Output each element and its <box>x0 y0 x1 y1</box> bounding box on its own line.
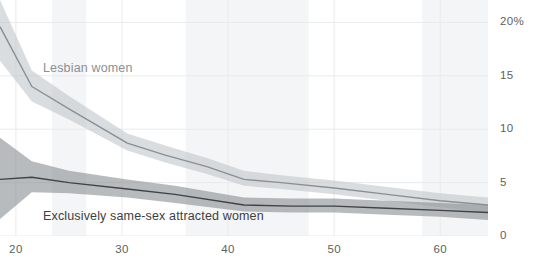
y-tick-label: 10 <box>500 123 514 135</box>
y-tick-label: 5 <box>500 177 507 189</box>
line-chart-svg <box>0 0 488 236</box>
x-tick-label: 50 <box>327 244 341 256</box>
series-label-lesbian-women: Lesbian women <box>43 62 133 75</box>
series-label-exclusively-same-sex-attracted-women: Exclusively same-sex attracted women <box>43 210 264 223</box>
plot-area <box>0 0 488 236</box>
y-tick-label: 15 <box>500 70 514 82</box>
x-tick-label: 20 <box>9 244 23 256</box>
y-axis-labels: 05101520% <box>492 0 546 236</box>
x-tick-label: 40 <box>221 244 235 256</box>
x-tick-label: 30 <box>115 244 129 256</box>
chart-container: 05101520% 2030405060 Lesbian women Exclu… <box>0 0 546 261</box>
y-tick-label: 20% <box>500 16 524 28</box>
x-axis-labels: 2030405060 <box>0 236 546 261</box>
x-tick-label: 60 <box>433 244 447 256</box>
